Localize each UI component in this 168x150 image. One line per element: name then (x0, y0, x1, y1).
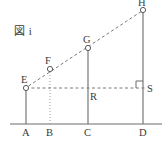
point-marker-f (47, 66, 52, 71)
right-angle-marker-s (136, 81, 143, 88)
incline-line-eh (24, 9, 145, 89)
geometry-figure: 図 i A B C D E F G H R S (0, 0, 168, 150)
vertex-label-d: D (139, 128, 147, 139)
vertex-label-s: S (147, 84, 153, 95)
vertex-label-f: F (45, 56, 51, 67)
vertex-label-c: C (84, 128, 91, 139)
vertex-label-r: R (90, 92, 97, 103)
point-marker-e (23, 85, 28, 90)
vertex-label-g: G (83, 35, 91, 46)
vertex-label-a: A (22, 128, 30, 139)
vertex-label-h: H (138, 0, 146, 9)
vertex-label-e: E (21, 75, 27, 86)
vertex-label-b: B (46, 128, 53, 139)
point-marker-g (85, 45, 90, 50)
